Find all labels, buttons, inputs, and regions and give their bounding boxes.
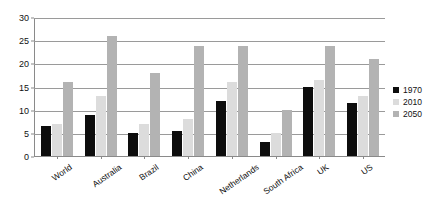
x-axis-label-cell: South Africa [254,160,298,218]
x-axis-category-label: UK [316,162,331,177]
bar [325,46,335,156]
bar [238,46,248,156]
bar [282,110,292,156]
legend-label: 1970 [403,86,422,95]
y-axis-tick-mark [31,133,34,134]
x-axis-tick-mark [188,156,189,159]
x-axis-category-label: Australia [90,162,123,189]
legend-swatch-icon [393,87,399,93]
bar [314,80,324,156]
y-axis-tick-label: 5 [24,129,29,138]
legend-item[interactable]: 1970 [393,84,437,96]
bar-group [166,18,210,156]
bar-groups [35,18,385,156]
bar-group [341,18,385,156]
plot-area: 051015202530 [34,18,385,157]
bar-group [79,18,123,156]
y-axis-tick-label: 15 [19,83,29,92]
legend-label: 2010 [403,98,422,107]
bar-group [298,18,342,156]
bar [183,119,193,156]
bar [271,133,281,156]
bar-group [254,18,298,156]
bar [369,59,379,156]
bar [63,82,73,156]
x-axis-label-cell: Australia [79,160,123,218]
bar [139,124,149,156]
bar [96,96,106,156]
bar-group [35,18,79,156]
x-axis-category-label: US [359,162,374,177]
bar [216,101,226,156]
y-axis-tick-label: 20 [19,60,29,69]
x-axis-tick-mark [232,156,233,159]
y-axis-tick-mark [31,18,34,19]
bar [172,131,182,156]
x-axis-tick-mark [363,156,364,159]
legend-label: 2050 [403,110,422,119]
bar [347,103,357,156]
y-axis-tick-mark [31,87,34,88]
x-axis-category-label: China [181,162,205,183]
x-axis-label-cell: World [35,160,79,218]
y-axis-tick-label: 0 [24,153,29,162]
x-axis-category-label: World [50,162,74,183]
y-axis-tick-label: 30 [19,14,29,23]
bar [358,96,368,156]
x-axis-tick-mark [144,156,145,159]
bar [194,46,204,156]
bar [52,124,62,156]
y-axis-tick-mark [31,110,34,111]
bar [41,126,51,156]
x-axis-category-labels: WorldAustraliaBrazilChinaNetherlandsSout… [35,160,385,218]
y-axis-tick-mark [31,41,34,42]
bar [260,142,270,156]
x-axis-category-label: Brazil [138,162,161,182]
legend-swatch-icon [393,111,399,117]
legend-item[interactable]: 2050 [393,108,437,120]
legend-swatch-icon [393,99,399,105]
x-axis-label-cell: Brazil [123,160,167,218]
y-axis-tick-label: 10 [19,106,29,115]
chart-legend: 197020102050 [393,84,437,120]
y-axis-tick-label: 25 [19,37,29,46]
x-axis-label-cell: UK [298,160,342,218]
bar [85,115,95,156]
bar [150,73,160,156]
x-axis-label-cell: Netherlands [210,160,254,218]
x-axis-tick-mark [319,156,320,159]
bar [227,82,237,156]
bar [107,36,117,156]
x-axis-tick-mark [57,156,58,159]
y-axis-tick-mark [31,157,34,158]
y-axis-tick-mark [31,64,34,65]
bar [128,133,138,156]
bar [303,87,313,156]
x-axis-label-cell: US [341,160,385,218]
bar-chart-figure: 051015202530 WorldAustraliaBrazilChinaNe… [0,0,437,220]
x-axis-tick-mark [101,156,102,159]
x-axis-tick-mark [276,156,277,159]
legend-item[interactable]: 2010 [393,96,437,108]
x-axis-label-cell: China [166,160,210,218]
bar-group [210,18,254,156]
bar-group [123,18,167,156]
